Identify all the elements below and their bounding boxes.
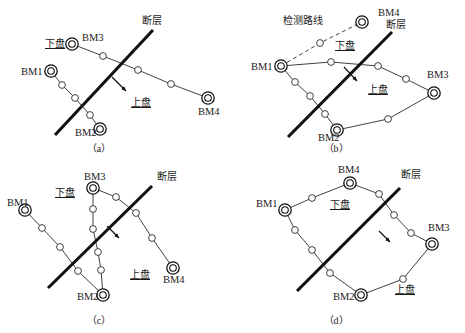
survey-node	[376, 191, 383, 198]
survey-node	[57, 244, 64, 251]
panel-caption-c: （c）	[87, 315, 111, 326]
survey-node	[307, 93, 314, 100]
benchmark-bm3-label-a: BM3	[82, 32, 103, 43]
panel-a: BM1BM2BM3BM4断层下盘上盘	[21, 14, 220, 138]
figure-canvas: BM1BM2BM3BM4断层下盘上盘（a）BM1BM2BM3BM4断层下盘上盘检…	[0, 0, 465, 333]
benchmark-bm4-core	[205, 95, 212, 102]
footwall-label-c: 下盘	[55, 186, 75, 198]
benchmark-bm4-core	[359, 19, 366, 26]
benchmark-bm3-core	[431, 90, 438, 97]
hangingwall-label-c: 上盘	[130, 268, 150, 280]
footwall-label-b: 下盘	[335, 39, 355, 51]
benchmark-bm3-core	[90, 185, 97, 192]
fault-label-b: 断层	[386, 18, 406, 30]
benchmark-bm4-label-d: BM4	[338, 164, 360, 175]
chain-bm1-bm2	[25, 210, 103, 295]
benchmark-bm2-core	[358, 292, 365, 299]
survey-node	[328, 59, 335, 66]
survey-node	[408, 230, 415, 237]
survey-node	[90, 226, 97, 233]
panel-c: BM1BM2BM3BM4断层下盘上盘	[7, 170, 185, 302]
benchmark-bm3-core	[69, 41, 76, 48]
fault-label-c: 断层	[157, 170, 177, 182]
panel-caption-b: （b）	[324, 143, 349, 154]
survey-node	[322, 111, 329, 118]
benchmark-bm3-label-d: BM3	[428, 222, 449, 233]
fault-label-a: 断层	[142, 14, 162, 26]
survey-node	[75, 268, 82, 275]
benchmark-bm4-label-b: BM4	[378, 7, 400, 18]
chain-bm1-bm2	[285, 210, 361, 295]
panel-d: BM1BM2BM3BM4断层下盘上盘	[256, 164, 449, 302]
survey-node	[292, 79, 299, 86]
benchmark-bm2-label-a: BM2	[75, 127, 96, 138]
footwall-label-d: 下盘	[330, 198, 350, 210]
benchmark-bm4-label-a: BM4	[198, 106, 220, 117]
hangingwall-label-b: 上盘	[368, 83, 388, 95]
survey-node	[292, 227, 299, 234]
survey-node	[135, 67, 142, 74]
chain-bm3-bm4	[93, 188, 173, 268]
survey-node	[98, 267, 105, 274]
benchmark-bm2-core	[97, 126, 104, 133]
benchmark-bm4-core	[347, 180, 354, 187]
benchmark-bm2-label-d: BM2	[333, 291, 354, 302]
benchmark-bm1-core	[282, 207, 289, 214]
chain-bm2-bm3	[337, 93, 434, 130]
footwall-label-a: 下盘	[45, 37, 65, 49]
hangingwall-label-a: 上盘	[131, 96, 151, 108]
benchmark-bm2-label-c: BM2	[77, 291, 98, 302]
benchmark-bm1-label-a: BM1	[21, 66, 42, 77]
benchmark-bm1-label-b: BM1	[251, 61, 272, 72]
survey-node	[309, 247, 316, 254]
survey-node	[309, 195, 316, 202]
panel-caption-d: （d）	[324, 315, 349, 326]
survey-node	[385, 116, 392, 123]
survey-route-label-b: 检测路线	[283, 14, 323, 26]
benchmark-bm1-label-d: BM1	[256, 198, 277, 209]
survey-node	[95, 249, 102, 256]
survey-node	[317, 40, 324, 47]
survey-node	[375, 63, 382, 70]
benchmark-bm3-label-b: BM3	[427, 69, 448, 80]
benchmark-bm4-label-c: BM4	[163, 274, 185, 285]
survey-node	[100, 53, 107, 60]
survey-node	[39, 225, 46, 232]
benchmark-bm3-label-c: BM3	[84, 171, 105, 182]
survey-node	[90, 206, 97, 213]
fault-label-d: 断层	[401, 168, 421, 180]
survey-node	[133, 210, 140, 217]
survey-node	[327, 270, 334, 277]
benchmark-bm2-label-b: BM2	[318, 132, 339, 143]
survey-node	[149, 235, 156, 242]
survey-node	[87, 112, 94, 119]
panel-caption-a: （a）	[87, 143, 111, 154]
survey-node	[403, 76, 410, 83]
survey-node	[113, 194, 120, 201]
survey-node	[168, 81, 175, 88]
benchmark-bm1-core	[278, 63, 285, 70]
survey-node	[72, 95, 79, 102]
survey-node	[59, 82, 66, 89]
benchmark-bm3-core	[429, 241, 436, 248]
benchmark-bm1-core	[48, 68, 55, 75]
benchmark-bm1-label-c: BM1	[7, 197, 28, 208]
benchmark-bm2-core	[100, 292, 107, 299]
benchmark-bm4-core	[170, 265, 177, 272]
survey-node	[400, 276, 407, 283]
fault-monitoring-figure: BM1BM2BM3BM4断层下盘上盘（a）BM1BM2BM3BM4断层下盘上盘检…	[0, 0, 465, 333]
survey-node	[391, 212, 398, 219]
hangingwall-label-d: 上盘	[395, 283, 415, 295]
panel-b: BM1BM2BM3BM4断层下盘上盘检测路线	[251, 7, 448, 143]
